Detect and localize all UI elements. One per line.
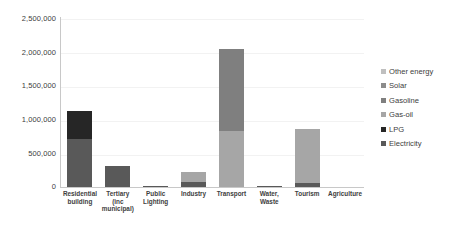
bar-series-group: [61, 17, 364, 187]
bar-group: [250, 17, 288, 187]
legend-label: Solar: [389, 81, 407, 90]
legend-item[interactable]: LPG: [381, 122, 465, 137]
bar-segment[interactable]: [181, 182, 206, 187]
bar-segment[interactable]: [67, 111, 92, 140]
bar-segment[interactable]: [67, 139, 92, 187]
legend-swatch-icon: [381, 127, 386, 132]
legend-item[interactable]: Gas-oil: [381, 108, 465, 123]
legend-swatch-icon: [381, 112, 386, 117]
legend-label: Other energy: [389, 67, 433, 76]
x-axis-category-label: Tourism: [288, 190, 326, 213]
legend-swatch-icon: [381, 98, 386, 103]
x-axis-category-label: Transport: [213, 190, 251, 213]
bar-stack[interactable]: [181, 172, 206, 187]
chart-legend: Other energySolarGasolineGas-oilLPGElect…: [381, 64, 465, 151]
legend-label: Electricity: [389, 139, 422, 148]
bar-segment[interactable]: [219, 49, 244, 131]
legend-label: Gasoline: [389, 96, 419, 105]
bar-group: [61, 17, 99, 187]
y-axis-tick-label: 0: [0, 183, 56, 191]
bar-group: [99, 17, 137, 187]
bar-segment[interactable]: [181, 172, 206, 182]
plot-area: [61, 17, 364, 187]
y-axis-tick-label: 2,000,000: [0, 49, 56, 57]
bar-group: [326, 17, 364, 187]
x-axis-line: [60, 187, 364, 188]
bar-segment[interactable]: [295, 129, 320, 184]
bar-segment[interactable]: [257, 186, 282, 187]
y-axis-tick-label: 1,000,000: [0, 116, 56, 124]
x-axis-category-label: Agriculture: [326, 190, 364, 213]
bar-group: [288, 17, 326, 187]
y-axis-tick-label: 1,500,000: [0, 82, 56, 90]
bar-stack[interactable]: [219, 49, 244, 187]
y-axis-tick-label: 500,000: [0, 150, 56, 158]
legend-item[interactable]: Other energy: [381, 64, 465, 79]
bar-stack[interactable]: [67, 111, 92, 187]
bar-stack[interactable]: [143, 186, 168, 187]
legend-swatch-icon: [381, 83, 386, 88]
y-axis-tick-labels: 2,500,000 2,000,000 1,500,000 1,000,000 …: [0, 0, 56, 231]
x-axis-category-labels: Residential buildingTertiary (inc munici…: [61, 190, 364, 213]
x-axis-category-label: Tertiary (inc municipal): [99, 190, 137, 213]
bar-group: [213, 17, 251, 187]
bar-stack[interactable]: [295, 129, 320, 187]
legend-label: LPG: [389, 125, 404, 134]
x-axis-category-label: Public Lighting: [137, 190, 175, 213]
bar-segment[interactable]: [219, 131, 244, 187]
bar-stack[interactable]: [257, 186, 282, 187]
x-axis-category-label: Water, Waste: [250, 190, 288, 213]
bar-segment[interactable]: [295, 183, 320, 187]
bar-stack[interactable]: [105, 166, 130, 187]
x-axis-category-label: Industry: [175, 190, 213, 213]
x-axis-category-label: Residential building: [61, 190, 99, 213]
y-axis-tick-label: 2,500,000: [0, 15, 56, 23]
stacked-bar-chart: 2,500,000 2,000,000 1,500,000 1,000,000 …: [0, 0, 465, 231]
legend-swatch-icon: [381, 69, 386, 74]
legend-item[interactable]: Solar: [381, 79, 465, 94]
bar-group: [137, 17, 175, 187]
bar-group: [175, 17, 213, 187]
legend-label: Gas-oil: [389, 110, 413, 119]
bar-segment[interactable]: [105, 166, 130, 187]
legend-item[interactable]: Gasoline: [381, 93, 465, 108]
legend-swatch-icon: [381, 141, 386, 146]
legend-item[interactable]: Electricity: [381, 137, 465, 152]
bar-segment[interactable]: [143, 186, 168, 187]
